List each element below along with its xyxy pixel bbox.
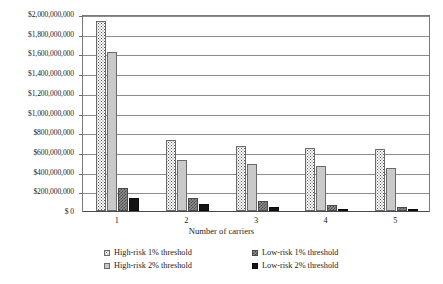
bar-lr2-cat-2 — [199, 204, 209, 211]
bar-lr2-cat-4 — [338, 209, 348, 211]
legend-label: High-risk 1% threshold — [114, 248, 192, 257]
y-tick-label: $600,000,000 — [33, 149, 74, 157]
legend-swatch-icon — [104, 250, 110, 256]
bar-group — [96, 16, 139, 211]
y-axis: $2,000,000,000$1,800,000,000$1,600,000,0… — [0, 0, 78, 284]
y-tickmark — [79, 16, 83, 17]
bar-lr1-cat-1 — [118, 188, 128, 211]
y-tickmark — [79, 75, 83, 76]
y-tickmark — [79, 134, 83, 135]
bar-group — [166, 16, 209, 211]
legend-item: High-risk 2% threshold — [104, 261, 252, 270]
y-tick-label: $2,000,000,000 — [28, 11, 74, 19]
y-tick-label: $1,000,000,000 — [28, 110, 74, 118]
x-tick-label: 5 — [360, 216, 430, 225]
y-tick-label: $800,000,000 — [33, 129, 74, 137]
bar-lr1-cat-2 — [188, 198, 198, 211]
legend-swatch-icon — [252, 250, 258, 256]
bar-hr2-cat-4 — [316, 166, 326, 211]
y-tickmark — [79, 95, 83, 96]
x-axis-title: Number of carriers — [0, 226, 443, 236]
bar-lr2-cat-3 — [269, 207, 279, 211]
bar-group — [236, 16, 279, 211]
y-tickmark — [79, 193, 83, 194]
bar-group — [305, 16, 348, 211]
bar-lr1-cat-3 — [258, 201, 268, 211]
y-tickmark — [79, 154, 83, 155]
y-tick-label: $1,400,000,000 — [28, 70, 74, 78]
y-tickmark — [79, 174, 83, 175]
x-tick-label: 2 — [152, 216, 222, 225]
legend-item: Low-risk 1% threshold — [252, 248, 339, 257]
legend-row: High-risk 1% thresholdLow-risk 1% thresh… — [104, 246, 404, 259]
plot-area — [82, 15, 430, 212]
bar-hr1-cat-1 — [96, 21, 106, 211]
x-tick-label: 4 — [291, 216, 361, 225]
y-tick-label: $1,600,000,000 — [28, 50, 74, 58]
y-tickmark — [79, 115, 83, 116]
bar-hr1-cat-3 — [236, 146, 246, 211]
bar-hr1-cat-5 — [375, 149, 385, 211]
y-tick-label: $1,800,000,000 — [28, 31, 74, 39]
x-tick-label: 1 — [82, 216, 152, 225]
legend-item: Low-risk 2% threshold — [252, 261, 339, 270]
y-tick-label: $ 0 — [65, 208, 74, 216]
legend-swatch-icon — [252, 263, 258, 269]
bar-chart: $2,000,000,000$1,800,000,000$1,600,000,0… — [0, 0, 443, 284]
bar-group — [375, 16, 418, 211]
y-tickmark — [79, 36, 83, 37]
legend-label: Low-risk 1% threshold — [262, 248, 339, 257]
legend-item: High-risk 1% threshold — [104, 248, 252, 257]
x-tick-label: 3 — [221, 216, 291, 225]
y-tick-label: $1,200,000,000 — [28, 90, 74, 98]
bar-lr1-cat-4 — [327, 205, 337, 211]
bar-hr2-cat-1 — [107, 52, 117, 211]
bar-hr2-cat-5 — [386, 168, 396, 211]
legend-swatch-icon — [104, 263, 110, 269]
y-tick-label: $200,000,000 — [33, 188, 74, 196]
bar-hr1-cat-4 — [305, 148, 315, 211]
y-tickmark — [79, 55, 83, 56]
legend-label: Low-risk 2% threshold — [262, 261, 339, 270]
bar-lr2-cat-1 — [129, 198, 139, 211]
bar-lr2-cat-5 — [408, 209, 418, 211]
bar-hr2-cat-2 — [177, 160, 187, 211]
chart-legend: High-risk 1% thresholdLow-risk 1% thresh… — [104, 246, 404, 272]
bar-lr1-cat-5 — [397, 207, 407, 211]
y-tick-label: $400,000,000 — [33, 169, 74, 177]
legend-row: High-risk 2% thresholdLow-risk 2% thresh… — [104, 259, 404, 272]
legend-label: High-risk 2% threshold — [114, 261, 192, 270]
bar-hr1-cat-2 — [166, 140, 176, 211]
bar-hr2-cat-3 — [247, 164, 257, 211]
